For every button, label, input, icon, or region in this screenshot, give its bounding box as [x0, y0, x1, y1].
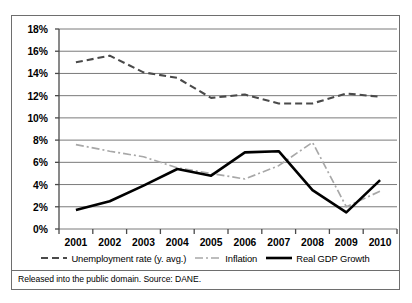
y-tick-label: 4% — [14, 179, 48, 190]
y-tick-label: 16% — [14, 46, 48, 57]
footer-divider — [12, 270, 399, 271]
y-tick-label: 14% — [14, 68, 48, 79]
legend-label: Real GDP Growth — [296, 253, 369, 264]
legend-entry: Inflation — [195, 253, 257, 264]
chart-svg — [12, 16, 399, 252]
y-tick-label: 2% — [14, 201, 48, 212]
y-tick-label: 8% — [14, 135, 48, 146]
legend-entry: Real GDP Growth — [266, 253, 369, 264]
x-tick-label: 2010 — [360, 237, 400, 248]
legend-swatch-dashdot — [195, 254, 221, 262]
footer-caption: Released into the public domain. Source:… — [18, 274, 201, 284]
series-line-0 — [76, 56, 380, 104]
y-tick-label: 6% — [14, 157, 48, 168]
legend-swatch-dashed — [41, 254, 67, 262]
legend-label: Inflation — [225, 253, 257, 264]
y-tick-label: 18% — [14, 24, 48, 35]
y-tick-label: 12% — [14, 90, 48, 101]
series-line-2 — [76, 151, 380, 212]
chart-figure: 0%2%4%6%8%10%12%14%16%18% 20012002200320… — [11, 15, 400, 290]
y-tick-label: 0% — [14, 224, 48, 235]
chart-plot-area: 0%2%4%6%8%10%12%14%16%18% 20012002200320… — [12, 16, 399, 252]
y-tick-label: 10% — [14, 112, 48, 123]
legend-entry: Unemployment rate (y. avg.) — [41, 253, 186, 264]
chart-legend: Unemployment rate (y. avg.)InflationReal… — [12, 248, 399, 268]
legend-swatch-solid — [266, 254, 292, 262]
legend-label: Unemployment rate (y. avg.) — [71, 253, 186, 264]
